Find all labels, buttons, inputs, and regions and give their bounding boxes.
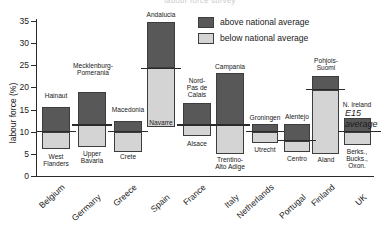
bar-segment-below[interactable] xyxy=(216,125,244,154)
y-tick-label-20: 20 xyxy=(20,83,29,92)
bar-segment-above[interactable] xyxy=(42,107,70,131)
bar-segment-above[interactable] xyxy=(147,22,175,68)
e15-average-line1: E15 xyxy=(345,108,378,119)
y-axis-line xyxy=(36,19,37,177)
region-label-below: Crete xyxy=(112,153,144,160)
national-average-marker xyxy=(278,140,316,141)
y-tick-15 xyxy=(31,110,36,111)
national-average-marker xyxy=(72,124,112,125)
region-label-above: Mecklenburg- Pomerania xyxy=(68,62,118,76)
bar-group[interactable] xyxy=(42,107,70,149)
legend-swatch-below-icon xyxy=(198,33,214,44)
y-tick-25 xyxy=(31,65,36,66)
region-label-below: Alsace xyxy=(181,140,213,147)
legend-swatch-above-icon xyxy=(198,17,214,28)
chart-title: labour force survey xyxy=(110,0,290,5)
x-axis-label-italy: Italy xyxy=(197,192,241,231)
region-label-below: Berks., Bucks., Oxon. xyxy=(335,148,379,170)
bar-group[interactable] xyxy=(284,124,310,152)
e15-average-line2: average xyxy=(345,119,378,130)
labour-force-bar-chart: labour force survey labour force (%) 051… xyxy=(0,0,385,231)
bar-segment-below[interactable] xyxy=(344,132,371,145)
bar-segment-below[interactable] xyxy=(114,132,142,152)
region-label-below: Upper Bavaria xyxy=(76,150,108,164)
y-tick-label-10: 10 xyxy=(20,128,29,137)
bar-segment-below[interactable] xyxy=(42,132,70,150)
legend-item-below: below national average xyxy=(198,32,309,45)
y-tick-30 xyxy=(31,43,36,44)
region-label-below: Trentino- Alto Adige xyxy=(206,156,254,170)
y-tick-20 xyxy=(31,87,36,88)
y-tick-label-30: 30 xyxy=(20,39,29,48)
bar-group[interactable] xyxy=(216,73,244,154)
national-average-marker xyxy=(108,131,148,132)
x-axis-label-france: France xyxy=(164,182,208,223)
y-tick-label-0: 0 xyxy=(24,172,29,181)
region-label-above: Campania xyxy=(206,63,254,70)
y-tick-35 xyxy=(31,21,36,22)
region-label-above: Andalucia xyxy=(137,11,185,18)
y-tick-0 xyxy=(31,176,36,177)
legend-item-above: above national average xyxy=(198,16,309,29)
region-label-above: Hainaut xyxy=(40,92,72,99)
chart-legend: above national average below national av… xyxy=(198,16,309,48)
national-average-marker xyxy=(141,68,181,69)
region-label-below: West Flanders xyxy=(40,153,72,167)
national-average-marker xyxy=(36,131,76,132)
legend-label-above: above national average xyxy=(220,16,309,29)
national-average-marker xyxy=(246,131,284,132)
y-tick-label-15: 15 xyxy=(20,106,29,115)
x-axis-label-greece: Greece xyxy=(95,182,139,223)
x-axis-line xyxy=(36,176,374,177)
region-label-above: Pohjois- Suomi xyxy=(304,57,348,71)
x-axis-label-netherlands: Netherlands xyxy=(232,182,276,223)
y-tick-5 xyxy=(31,154,36,155)
bar-segment-above[interactable] xyxy=(284,124,310,141)
national-average-marker xyxy=(210,124,250,125)
y-axis-label: labour force (%) xyxy=(8,48,18,178)
y-tick-label-25: 25 xyxy=(20,61,29,70)
y-tick-label-35: 35 xyxy=(20,17,29,26)
bar-group[interactable] xyxy=(78,92,106,147)
bar-segment-below[interactable] xyxy=(312,90,339,154)
bar-segment-below[interactable] xyxy=(78,125,106,147)
x-axis-label-uk: UK xyxy=(324,192,368,231)
bar-group[interactable] xyxy=(147,22,175,127)
x-axis-label-germany: Germany xyxy=(59,192,103,231)
bar-segment-above[interactable] xyxy=(78,92,106,125)
bar-segment-below[interactable] xyxy=(284,141,310,152)
x-axis-label-belgium: Belgium xyxy=(23,182,67,223)
region-label-below: Utrecht xyxy=(241,146,289,153)
e15-average-annotation: E15 average xyxy=(345,108,378,130)
region-label-above: Nord- Pas de Calais xyxy=(179,77,215,99)
bar-segment-above[interactable] xyxy=(216,73,244,125)
national-average-marker xyxy=(306,89,345,90)
y-tick-label-5: 5 xyxy=(24,150,29,159)
bar-segment-below[interactable] xyxy=(183,125,211,136)
bar-group[interactable] xyxy=(183,103,211,136)
e15-average-line xyxy=(369,131,381,132)
bar-segment-below[interactable] xyxy=(252,132,278,143)
region-label-above: Macedonia xyxy=(104,106,152,113)
x-axis-label-spain: Spain xyxy=(128,192,172,231)
bar-segment-above[interactable] xyxy=(312,76,339,89)
bar-segment-above[interactable] xyxy=(183,103,211,125)
bar-group[interactable] xyxy=(252,124,278,143)
legend-label-below: below national average xyxy=(220,32,308,45)
